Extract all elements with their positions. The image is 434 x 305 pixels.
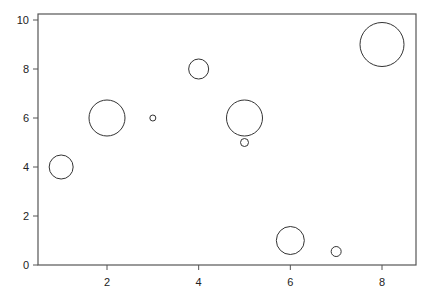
x-tick-label: 6 <box>287 276 293 288</box>
bubble <box>189 59 209 79</box>
x-tick-label: 2 <box>104 276 110 288</box>
bubble <box>150 115 156 121</box>
bubble <box>360 23 404 67</box>
bubble <box>89 100 125 136</box>
bubbles <box>49 23 404 257</box>
bubble <box>241 139 249 147</box>
bubble <box>227 100 263 136</box>
y-tick-label: 4 <box>23 161 29 173</box>
y-tick-label: 2 <box>23 210 29 222</box>
bubble <box>49 155 73 179</box>
plot-frame <box>38 14 416 265</box>
y-tick-label: 8 <box>23 63 29 75</box>
plot-border <box>38 14 416 265</box>
y-axis: 0246810 <box>17 14 38 271</box>
x-axis: 2468 <box>104 265 385 288</box>
y-tick-label: 0 <box>23 259 29 271</box>
y-tick-label: 6 <box>23 112 29 124</box>
bubble-chart: 0246810 2468 <box>0 0 434 305</box>
bubble <box>331 247 341 257</box>
bubble <box>276 227 304 255</box>
x-tick-label: 4 <box>196 276 202 288</box>
x-tick-label: 8 <box>379 276 385 288</box>
y-tick-label: 10 <box>17 14 29 26</box>
